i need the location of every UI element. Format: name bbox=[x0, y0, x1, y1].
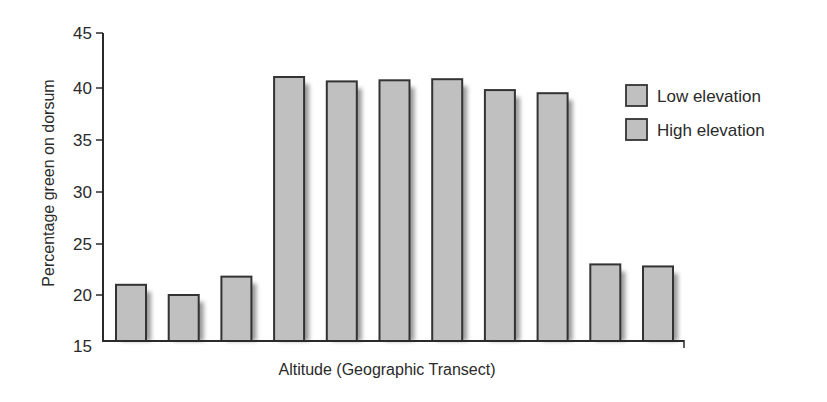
bar-4 bbox=[274, 77, 304, 341]
bar-7 bbox=[432, 79, 462, 341]
bar-11 bbox=[643, 266, 673, 341]
bar-2 bbox=[169, 295, 199, 341]
y-tick-label: 35 bbox=[73, 131, 92, 150]
legend-swatch bbox=[626, 119, 647, 140]
legend-label: High elevation bbox=[657, 121, 765, 140]
y-tick-label: 15 bbox=[73, 337, 92, 356]
bar-10 bbox=[590, 264, 620, 341]
y-tick-label: 20 bbox=[73, 286, 92, 305]
bar-3 bbox=[221, 277, 251, 341]
legend: Low elevationHigh elevation bbox=[626, 85, 765, 140]
legend-swatch bbox=[626, 85, 647, 106]
bar-5 bbox=[327, 81, 357, 341]
bars bbox=[116, 77, 673, 341]
y-tick-label: 25 bbox=[73, 235, 92, 254]
y-axis-title: Percentage green on dorsum bbox=[40, 79, 57, 286]
bar-chart: 15202530354045 Altitude (Geographic Tran… bbox=[0, 0, 827, 402]
x-axis-title: Altitude (Geographic Transect) bbox=[279, 361, 496, 378]
y-axis-ticks: 15202530354045 bbox=[73, 24, 103, 356]
bar-9 bbox=[538, 93, 568, 341]
bar-8 bbox=[485, 90, 515, 341]
bar-1 bbox=[116, 285, 146, 341]
y-tick-label: 40 bbox=[73, 79, 92, 98]
legend-label: Low elevation bbox=[657, 87, 761, 106]
y-tick-label: 45 bbox=[73, 24, 92, 43]
bar-6 bbox=[380, 80, 410, 341]
y-tick-label: 30 bbox=[73, 183, 92, 202]
